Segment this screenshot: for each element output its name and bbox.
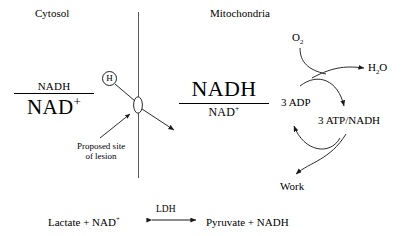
mitochondria-ratio-bar [179,103,269,104]
lesion-annotation: Proposed site of lesion [64,141,138,162]
cytosol-nadh-nad-ratio: NADH NAD+ [12,80,96,120]
species-atp-per-nadh: 3 ATP/NADH [318,114,380,126]
lesion-pointer-arrow [100,114,130,138]
shuttle-arrow-out-segment [142,109,174,130]
lesion-annotation-line1: Proposed site [77,141,125,151]
species-adp: 3 ADP [281,96,311,108]
compartment-label-mitochondria: Mitochondria [210,8,270,20]
atp-to-adp-return-curve [294,126,340,149]
ldh-enzyme-label: LDH [156,204,176,214]
species-water: H2O [368,61,387,73]
mitochondria-nadh-nad-ratio: NADH NAD+ [176,76,272,120]
species-oxygen: O2 [292,31,303,43]
cytosol-ratio-denominator: NAD+ [12,95,96,120]
oxygen-input-curve [300,48,326,74]
cytosol-ratio-bar [14,93,94,94]
mitochondria-ratio-numerator: NADH [176,76,272,102]
ldh-left-side: Lactate + NAD+ [48,216,120,228]
hydrogen-carrier-icon: H [102,71,117,86]
mitochondria-ratio-denominator: NAD+ [176,105,272,120]
compartment-label-cytosol: Cytosol [35,8,69,20]
mitochondrial-membrane-line [138,12,139,178]
biochemistry-diagram: Cytosol Mitochondria NADH NAD+ NADH NAD+… [0,0,405,236]
species-work: Work [280,180,304,192]
work-output-arrow [296,134,346,174]
shuttle-arrow-in-segment [115,84,135,101]
cytosol-ratio-numerator: NADH [12,80,96,92]
ldh-right-side: Pyruvate + NADH [206,216,289,228]
lesion-annotation-line2: of lesion [85,151,116,161]
water-output-arrow [312,67,364,78]
